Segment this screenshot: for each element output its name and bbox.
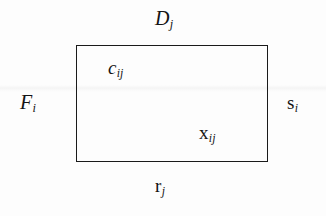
transportation-cell-rectangle — [76, 45, 268, 162]
label-cost-cij-subscript: ij — [117, 67, 124, 80]
label-revenue-rj-subscript: j — [162, 185, 165, 198]
label-flow-xij: xij — [199, 123, 216, 145]
label-revenue-rj: rj — [155, 176, 165, 198]
label-supply-si-subscript: i — [295, 102, 298, 115]
label-supply-si: si — [287, 93, 298, 115]
diagram-canvas: Dj Fi si cij xij rj — [0, 0, 326, 216]
label-cost-cij-base: c — [108, 57, 116, 78]
label-flow-xij-subscript: ij — [209, 132, 216, 145]
label-demand-dj-subscript: j — [170, 17, 174, 31]
label-facility-fi: Fi — [20, 92, 36, 115]
label-facility-fi-base: F — [20, 91, 32, 113]
label-flow-xij-base: x — [199, 122, 209, 143]
label-demand-dj: Dj — [155, 8, 173, 31]
label-supply-si-base: s — [287, 92, 294, 113]
label-cost-cij: cij — [108, 58, 123, 80]
label-demand-dj-base: D — [155, 7, 169, 29]
label-facility-fi-subscript: i — [33, 101, 37, 115]
label-revenue-rj-base: r — [155, 175, 161, 196]
